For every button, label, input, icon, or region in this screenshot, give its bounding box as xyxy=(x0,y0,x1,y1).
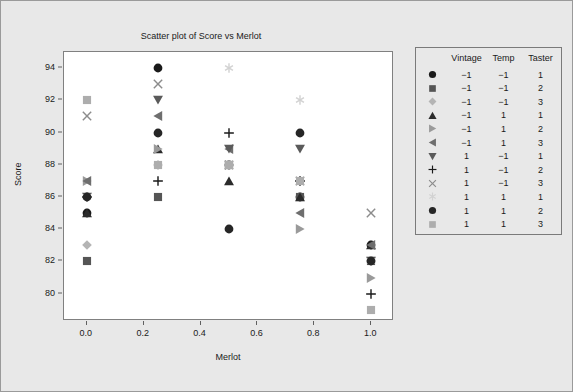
page-title: Scatter plot of Score vs Merlot xyxy=(1,31,401,41)
data-point xyxy=(81,191,92,202)
legend: Vintage Temp Taster −1−11−1−12−1−13−111−… xyxy=(415,47,562,235)
data-point xyxy=(224,175,235,186)
legend-header-temp: Temp xyxy=(485,53,522,63)
legend-cell-taster: 3 xyxy=(522,138,559,148)
legend-row[interactable]: 1−11 xyxy=(416,150,561,163)
legend-row[interactable]: −112 xyxy=(416,122,561,135)
legend-cell-vintage: −1 xyxy=(448,138,485,148)
legend-cell-temp: 1 xyxy=(485,206,522,216)
x-axis-tick-label: 0.2 xyxy=(123,328,163,338)
legend-row[interactable]: −111 xyxy=(416,109,561,122)
legend-marker-icon xyxy=(416,220,448,229)
legend-cell-vintage: −1 xyxy=(448,110,485,120)
x-axis-tick-mark xyxy=(200,321,201,325)
y-axis-tick-label: 88 xyxy=(21,159,55,169)
legend-cell-temp: −1 xyxy=(485,97,522,107)
y-axis-tick-mark xyxy=(58,163,62,164)
legend-cell-vintage: −1 xyxy=(448,83,485,93)
legend-cell-temp: −1 xyxy=(485,178,522,188)
legend-cell-taster: 1 xyxy=(522,110,559,120)
y-axis-tick-mark xyxy=(58,292,62,293)
legend-cell-vintage: 1 xyxy=(448,165,485,175)
x-axis-tick-mark xyxy=(143,321,144,325)
y-axis-tick-label: 90 xyxy=(21,127,55,137)
x-axis-tick-label: 0.0 xyxy=(66,328,106,338)
legend-row[interactable]: −1−11 xyxy=(416,68,561,81)
legend-header: Vintage Temp Taster xyxy=(416,53,561,63)
data-point xyxy=(224,127,235,138)
legend-marker-icon xyxy=(416,70,448,79)
legend-cell-temp: 1 xyxy=(485,219,522,229)
legend-cell-temp: 1 xyxy=(485,138,522,148)
legend-cell-vintage: −1 xyxy=(448,97,485,107)
legend-cell-vintage: 1 xyxy=(448,206,485,216)
x-axis-tick-label: 0.4 xyxy=(180,328,220,338)
data-point xyxy=(295,224,306,235)
legend-row[interactable]: 1−12 xyxy=(416,163,561,176)
legend-cell-vintage: 1 xyxy=(448,219,485,229)
y-axis-tick-mark xyxy=(58,99,62,100)
legend-marker-icon xyxy=(416,165,448,174)
data-point xyxy=(81,111,92,122)
legend-cell-vintage: −1 xyxy=(448,124,485,134)
x-axis-tick-mark xyxy=(256,321,257,325)
legend-cell-vintage: 1 xyxy=(448,192,485,202)
legend-marker-icon xyxy=(416,97,448,106)
data-point xyxy=(366,272,377,283)
data-point xyxy=(152,143,163,154)
y-axis-tick-mark xyxy=(58,260,62,261)
y-axis-tick-label: 82 xyxy=(21,255,55,265)
x-axis-tick-label: 1.0 xyxy=(350,328,390,338)
legend-marker-icon xyxy=(416,206,448,215)
legend-symbol-header xyxy=(416,53,448,63)
legend-cell-taster: 2 xyxy=(522,206,559,216)
legend-cell-temp: −1 xyxy=(485,70,522,80)
data-point xyxy=(295,208,306,219)
data-point xyxy=(152,175,163,186)
data-point xyxy=(224,143,235,154)
x-axis-tick-mark xyxy=(86,321,87,325)
x-axis-tick-mark xyxy=(370,321,371,325)
screenshot-root: Scatter plot of Score vs Merlot Score Me… xyxy=(0,0,573,392)
legend-row[interactable]: −1−13 xyxy=(416,95,561,108)
legend-cell-taster: 3 xyxy=(522,97,559,107)
legend-marker-icon xyxy=(416,138,448,147)
data-point xyxy=(224,224,235,235)
legend-cell-vintage: 1 xyxy=(448,178,485,188)
legend-cell-temp: −1 xyxy=(485,83,522,93)
legend-cell-temp: 1 xyxy=(485,124,522,134)
legend-row[interactable]: −1−12 xyxy=(416,82,561,95)
y-axis-tick-mark xyxy=(58,195,62,196)
legend-row[interactable]: 111 xyxy=(416,190,561,203)
data-point xyxy=(152,79,163,90)
legend-row[interactable]: 1−13 xyxy=(416,177,561,190)
legend-cell-temp: 1 xyxy=(485,192,522,202)
plot-area xyxy=(64,52,392,319)
data-point xyxy=(295,175,306,186)
legend-row[interactable]: 112 xyxy=(416,204,561,217)
y-axis-tick-mark xyxy=(58,131,62,132)
y-axis-tick-label: 84 xyxy=(21,223,55,233)
x-axis-tick-label: 0.8 xyxy=(293,328,333,338)
legend-cell-temp: 1 xyxy=(485,110,522,120)
data-point xyxy=(81,95,92,106)
legend-row[interactable]: −113 xyxy=(416,136,561,149)
y-axis-tick-label: 80 xyxy=(21,288,55,298)
data-point xyxy=(295,127,306,138)
legend-cell-vintage: −1 xyxy=(448,70,485,80)
data-point xyxy=(81,240,92,251)
data-point xyxy=(81,208,92,219)
data-point xyxy=(366,288,377,299)
data-point xyxy=(295,143,306,154)
legend-row[interactable]: 113 xyxy=(416,218,561,231)
data-point xyxy=(81,256,92,267)
data-point xyxy=(295,191,306,202)
legend-cell-taster: 3 xyxy=(522,178,559,188)
x-axis-tick-label: 0.6 xyxy=(236,328,276,338)
data-point xyxy=(152,63,163,74)
legend-cell-taster: 2 xyxy=(522,165,559,175)
data-point xyxy=(224,159,235,170)
legend-cell-taster: 1 xyxy=(522,70,559,80)
data-point xyxy=(152,95,163,106)
data-point xyxy=(224,63,235,74)
